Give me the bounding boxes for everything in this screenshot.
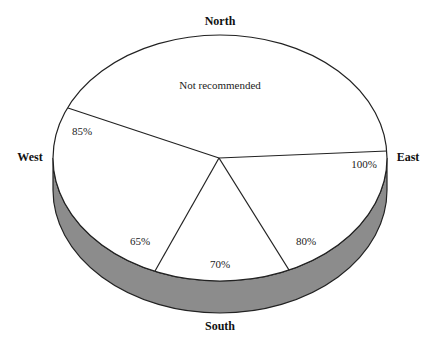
slice-north-label: Not recommended bbox=[179, 79, 261, 91]
label-east: East bbox=[397, 150, 420, 165]
label-north: North bbox=[205, 14, 236, 29]
label-south: South bbox=[205, 319, 235, 334]
slice-southwest-label: 65% bbox=[130, 235, 150, 247]
slice-south-label: 70% bbox=[210, 258, 230, 270]
slice-east-label: 100% bbox=[351, 158, 377, 170]
slice-southeast-label: 80% bbox=[296, 235, 316, 247]
slice-west-label: 85% bbox=[72, 125, 92, 137]
label-west: West bbox=[17, 150, 42, 165]
